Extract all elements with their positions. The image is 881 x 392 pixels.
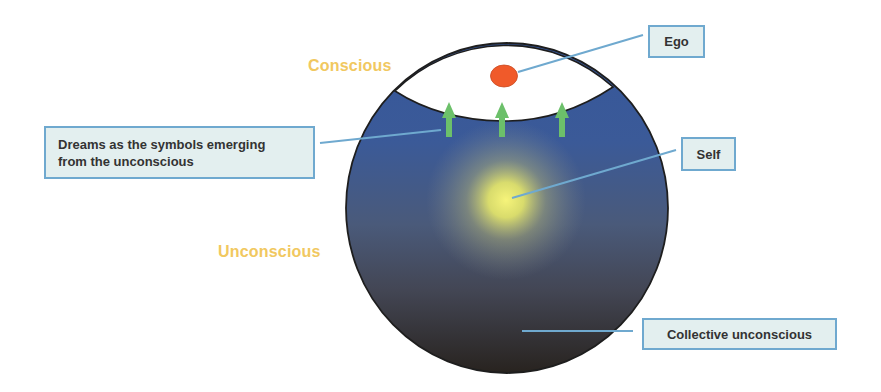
dreams-callout-line-1: Dreams as the symbols emerging [58, 136, 265, 153]
self-callout: Self [681, 137, 736, 171]
collective-unconscious-callout: Collective unconscious [642, 318, 837, 350]
self-callout-text: Self [697, 146, 721, 163]
ego-callout-text: Ego [664, 33, 689, 50]
dreams-callout-line-2: from the unconscious [58, 153, 265, 170]
unconscious-label: Unconscious [218, 243, 321, 261]
collective-callout-text: Collective unconscious [667, 326, 812, 343]
ego-callout: Ego [648, 25, 705, 58]
self-glow [426, 120, 586, 280]
conscious-label: Conscious [308, 57, 392, 75]
dreams-callout: Dreams as the symbols emerging from the … [44, 126, 315, 179]
dreams-callout-text: Dreams as the symbols emerging from the … [58, 136, 265, 170]
ego-marker [491, 65, 518, 87]
